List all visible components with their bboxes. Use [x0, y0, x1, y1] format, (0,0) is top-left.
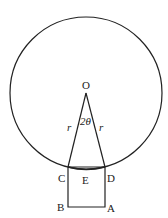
label-a: A: [107, 202, 115, 214]
label-r-right: r: [99, 121, 104, 133]
rectangle-abcd: [68, 167, 105, 207]
label-o: O: [82, 79, 90, 91]
label-e: E: [82, 174, 89, 186]
label-b: B: [57, 201, 64, 213]
label-r-left: r: [67, 121, 72, 133]
geometry-diagram: O r r 2θ C E D B A: [0, 0, 168, 218]
label-c: C: [58, 172, 65, 184]
label-angle: 2θ: [80, 115, 92, 127]
label-d: D: [107, 172, 115, 184]
